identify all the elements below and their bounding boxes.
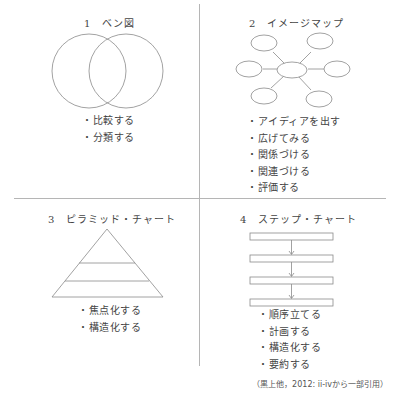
quadrant-1-title: 1 ベン図: [84, 15, 135, 30]
list-item: ・広げてみる: [247, 131, 341, 148]
list-item: ・関連づける: [247, 164, 341, 181]
pyramid-diagram: [52, 229, 163, 297]
list-item: ・比較する: [82, 113, 135, 130]
diagram-graphics: [0, 0, 402, 397]
quadrant-3-title: 3 ピラミッド・チャート: [48, 211, 176, 226]
step-chart-diagram: [250, 233, 333, 306]
quadrant-2-title: 2 イメージマップ: [249, 15, 344, 30]
list-item: ・構造化する: [78, 320, 141, 337]
list-item: ・評価する: [247, 180, 341, 197]
list-item: ・構造化する: [258, 340, 321, 357]
list-item: ・関係づける: [247, 147, 341, 164]
quadrant-1-list: ・比較する ・分類する: [82, 113, 135, 146]
image-map-diagram: [236, 33, 350, 107]
list-item: ・要約する: [258, 357, 321, 374]
list-item: ・焦点化する: [78, 303, 141, 320]
step-box-3: [250, 277, 333, 284]
venn-diagram: [52, 34, 163, 108]
step-box-1: [250, 233, 333, 240]
quadrant-3-list: ・焦点化する ・構造化する: [78, 303, 141, 336]
quadrant-2-list: ・アイディアを出す ・広げてみる ・関係づける ・関連づける ・評価する: [247, 114, 341, 197]
citation: （黒上他，2012: ii-ivから一部引用）: [252, 378, 388, 389]
map-node-bottom-right: [306, 91, 332, 107]
list-item: ・アイディアを出す: [247, 114, 341, 131]
map-node-top-left: [251, 35, 277, 51]
list-item: ・計画する: [258, 324, 321, 341]
list-item: ・順序立てる: [258, 307, 321, 324]
map-node-left: [236, 61, 262, 77]
map-center-node: [277, 62, 307, 78]
step-box-4: [250, 299, 333, 306]
list-item: ・分類する: [82, 130, 135, 147]
map-node-top-right: [307, 33, 333, 49]
map-node-right: [324, 61, 350, 77]
map-node-bottom-left: [251, 88, 277, 104]
quadrant-4-title: 4 ステップ・チャート: [240, 211, 357, 226]
quadrant-4-list: ・順序立てる ・計画する ・構造化する ・要約する: [258, 307, 321, 373]
step-box-2: [250, 255, 333, 262]
